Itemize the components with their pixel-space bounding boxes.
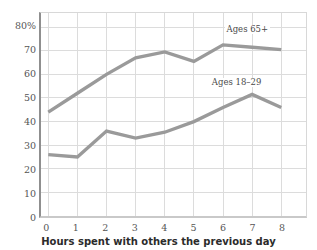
x-axis-tick-label: 0 <box>34 223 58 233</box>
y-axis-tick-label: 70 <box>3 45 36 55</box>
series-label-1: Ages 18–29 <box>210 78 264 87</box>
y-axis-tick-label: 80% <box>3 21 36 31</box>
x-axis-tick-label: 5 <box>182 223 206 233</box>
x-axis-tick-label: 2 <box>93 223 117 233</box>
x-axis-tick-label: 1 <box>64 223 88 233</box>
y-axis-tick-label: 30 <box>3 141 36 151</box>
x-axis-tick-label: 8 <box>270 223 294 233</box>
y-axis-tick-label: 40 <box>3 117 36 127</box>
plot-area <box>39 12 307 218</box>
y-axis-tick-label: 20 <box>3 165 36 175</box>
x-axis-tick-label: 6 <box>211 223 235 233</box>
line-chart: 01020304050607080% Ages 65+Ages 18–29 01… <box>0 0 317 250</box>
series-line-1 <box>48 94 281 157</box>
y-axis-tick-label: 60 <box>3 69 36 79</box>
series-label-0: Ages 65+ <box>225 25 271 34</box>
y-axis-tick-label: 50 <box>3 93 36 103</box>
y-axis-tick-label: 10 <box>3 189 36 199</box>
x-axis-tick-label: 4 <box>152 223 176 233</box>
x-axis-title: Hours spent with others the previous day <box>0 236 317 247</box>
y-axis-labels: 01020304050607080% <box>0 0 36 250</box>
x-axis-tick-label: 3 <box>123 223 147 233</box>
x-axis-labels: 012345678 <box>0 223 317 237</box>
series-lines <box>41 13 306 216</box>
y-axis-tick-label: 0 <box>3 213 36 223</box>
x-axis-tick-label: 7 <box>241 223 265 233</box>
